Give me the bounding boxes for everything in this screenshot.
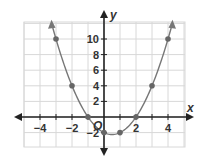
y-tick-label: 8 bbox=[93, 49, 99, 61]
data-point bbox=[53, 36, 59, 42]
parabola-chart: −4−224−2246810 x y O bbox=[0, 0, 206, 167]
x-tick-label: 4 bbox=[165, 122, 172, 134]
x-axis-label: x bbox=[186, 101, 195, 115]
y-tick-label: 10 bbox=[87, 33, 99, 45]
x-axis-left-arrow-icon bbox=[14, 113, 22, 121]
curve-right-arrow-icon bbox=[169, 20, 177, 29]
y-tick-label: 4 bbox=[93, 80, 100, 92]
y-axis-label: y bbox=[109, 8, 118, 22]
x-tick-label: −2 bbox=[66, 122, 79, 134]
parabola-curve bbox=[52, 25, 172, 135]
data-point bbox=[133, 114, 139, 120]
x-tick-label: 2 bbox=[133, 122, 139, 134]
data-point bbox=[165, 36, 171, 42]
y-axis-up-arrow-icon bbox=[100, 10, 108, 18]
origin-label: O bbox=[93, 119, 103, 133]
data-point bbox=[69, 83, 75, 89]
curve-left-arrow-icon bbox=[48, 20, 56, 29]
y-axis-down-arrow-icon bbox=[100, 148, 108, 156]
y-tick-label: 2 bbox=[93, 95, 99, 107]
data-point bbox=[85, 114, 91, 120]
x-tick-label: −4 bbox=[34, 122, 47, 134]
data-point bbox=[149, 83, 155, 89]
data-point bbox=[117, 130, 123, 136]
y-tick-label: 6 bbox=[93, 64, 99, 76]
